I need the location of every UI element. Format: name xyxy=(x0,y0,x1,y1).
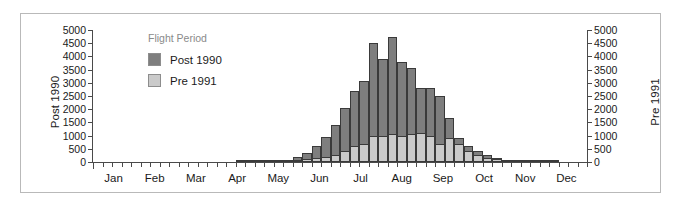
bar-pre-1991-33 xyxy=(407,134,417,162)
x-tick-11 xyxy=(198,163,199,167)
y-axis-title-right: Pre 1991 xyxy=(649,42,661,162)
x-tick-35 xyxy=(426,163,427,167)
y-tick-label-left-500: 500 xyxy=(44,144,86,155)
x-tick-30 xyxy=(378,163,379,167)
y-tick-label-left-4000: 4000 xyxy=(44,51,86,62)
x-tick-28 xyxy=(359,163,360,167)
y-tick-right-3000 xyxy=(588,83,592,84)
chart-legend: Flight Period Post 1990 Pre 1991 xyxy=(148,32,222,95)
x-tick-49 xyxy=(559,163,560,167)
bar-pre-1991-16 xyxy=(245,160,255,162)
y-tick-label-left-1000: 1000 xyxy=(44,131,86,142)
y-tick-label-right-2000: 2000 xyxy=(594,104,636,115)
x-tick-9 xyxy=(179,163,180,167)
y-tick-left-1500 xyxy=(88,122,92,123)
legend-item-pre-1991: Pre 1991 xyxy=(148,74,222,87)
legend-swatch-post-1990 xyxy=(148,53,161,66)
bar-pre-1991-22 xyxy=(302,159,312,162)
bar-pre-1991-37 xyxy=(445,138,455,162)
legend-title: Flight Period xyxy=(148,32,222,44)
x-tick-37 xyxy=(445,163,446,167)
y-tick-label-right-1500: 1500 xyxy=(594,117,636,128)
x-tick-31 xyxy=(388,163,389,167)
bar-pre-1991-32 xyxy=(397,136,407,162)
y-tick-label-right-4500: 4500 xyxy=(594,38,636,49)
x-tick-24 xyxy=(321,163,322,167)
y-tick-label-left-5000: 5000 xyxy=(44,25,86,36)
bar-pre-1991-42 xyxy=(492,159,502,162)
y-tick-label-right-2500: 2500 xyxy=(594,91,636,102)
x-tick-10 xyxy=(188,163,189,167)
x-tick-32 xyxy=(397,163,398,167)
y-tick-label-left-1500: 1500 xyxy=(44,117,86,128)
x-tick-48 xyxy=(549,163,550,167)
bar-pre-1991-18 xyxy=(264,160,274,162)
x-tick-21 xyxy=(293,163,294,167)
x-tick-29 xyxy=(369,163,370,167)
y-tick-right-2000 xyxy=(588,109,592,110)
bar-pre-1991-25 xyxy=(331,155,341,162)
y-tick-left-3500 xyxy=(88,70,92,71)
x-tick-40 xyxy=(473,163,474,167)
bar-pre-1991-39 xyxy=(464,151,474,162)
y-tick-left-5000 xyxy=(88,30,92,31)
y-tick-left-2000 xyxy=(88,109,92,110)
bar-pre-1991-28 xyxy=(359,144,369,162)
x-tick-51 xyxy=(578,163,579,167)
x-tick-1 xyxy=(103,163,104,167)
x-tick-12 xyxy=(207,163,208,167)
legend-label-pre-1991: Pre 1991 xyxy=(170,75,217,87)
y-tick-left-3000 xyxy=(88,83,92,84)
x-tick-5 xyxy=(141,163,142,167)
x-tick-36 xyxy=(435,163,436,167)
bar-pre-1991-47 xyxy=(540,160,550,162)
y-tick-label-left-0: 0 xyxy=(44,157,86,168)
bar-pre-1991-23 xyxy=(312,158,322,162)
bar-pre-1991-48 xyxy=(549,160,559,162)
bar-pre-1991-26 xyxy=(340,151,350,162)
y-tick-right-4500 xyxy=(588,43,592,44)
y-tick-right-1500 xyxy=(588,122,592,123)
x-tick-38 xyxy=(454,163,455,167)
y-tick-label-right-3000: 3000 xyxy=(594,78,636,89)
x-tick-18 xyxy=(264,163,265,167)
y-tick-right-3500 xyxy=(588,70,592,71)
x-tick-8 xyxy=(169,163,170,167)
x-tick-27 xyxy=(350,163,351,167)
x-tick-0 xyxy=(93,163,94,169)
x-tick-45 xyxy=(521,163,522,167)
bar-pre-1991-31 xyxy=(388,134,398,162)
bar-pre-1991-29 xyxy=(369,136,379,162)
y-tick-right-4000 xyxy=(588,56,592,57)
x-tick-13 xyxy=(217,163,218,167)
bar-pre-1991-44 xyxy=(511,160,521,162)
x-tick-4 xyxy=(131,163,132,167)
bar-pre-1991-30 xyxy=(378,136,388,162)
x-tick-7 xyxy=(160,163,161,167)
bar-pre-1991-46 xyxy=(530,160,540,162)
y-tick-label-right-1000: 1000 xyxy=(594,131,636,142)
y-tick-label-right-4000: 4000 xyxy=(594,51,636,62)
x-tick-2 xyxy=(112,163,113,167)
x-tick-19 xyxy=(274,163,275,167)
bar-pre-1991-40 xyxy=(473,155,483,162)
legend-label-post-1990: Post 1990 xyxy=(170,54,222,66)
x-tick-23 xyxy=(312,163,313,167)
x-tick-44 xyxy=(511,163,512,167)
y-tick-left-1000 xyxy=(88,136,92,137)
x-tick-20 xyxy=(283,163,284,167)
bar-pre-1991-41 xyxy=(483,158,493,162)
x-tick-6 xyxy=(150,163,151,167)
x-axis-label-dec: Dec xyxy=(536,172,596,184)
y-tick-left-0 xyxy=(88,162,92,163)
bar-pre-1991-27 xyxy=(350,146,360,162)
x-tick-14 xyxy=(226,163,227,167)
y-tick-left-4000 xyxy=(88,56,92,57)
x-tick-16 xyxy=(245,163,246,167)
x-tick-17 xyxy=(255,163,256,167)
y-tick-right-2500 xyxy=(588,96,592,97)
y-tick-label-left-4500: 4500 xyxy=(44,38,86,49)
bar-pre-1991-38 xyxy=(454,144,464,162)
bar-pre-1991-45 xyxy=(521,160,531,162)
chart-figure: Post 1990 Pre 1991 005005001000100015001… xyxy=(0,0,683,207)
